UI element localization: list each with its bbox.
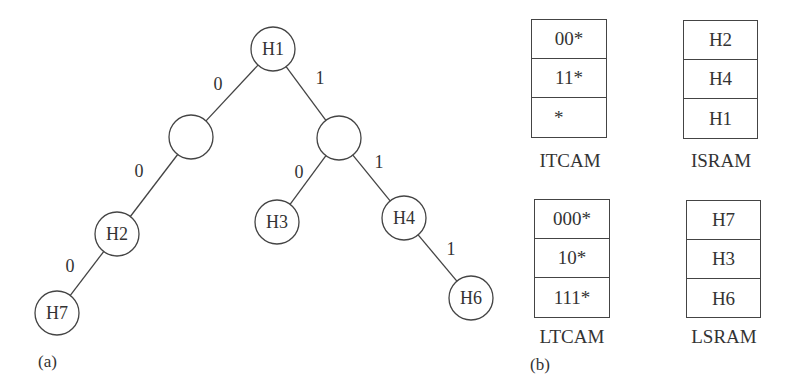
tree-node-h7: H7 [35,291,79,335]
edge-label: 0 [66,256,75,276]
isram-table: H2 H4 H1 [683,20,758,139]
edge-label: 0 [214,74,223,94]
lsram-entry: H6 [687,279,760,318]
edge-label: 0 [295,162,304,182]
isram-entry: H1 [684,99,757,138]
edge-label: 0 [135,161,144,181]
tree-node-h6: H6 [449,276,493,320]
tree-node-h1: H1 [251,27,295,71]
itcam-table: 00* 11* * [531,19,607,138]
edge-label: 1 [375,152,384,172]
lsram-table: H7 H3 H6 [686,200,761,318]
ltcam-entry: 111* [535,278,609,317]
lsram-entry: H3 [687,240,760,279]
isram-entry: H2 [684,21,757,60]
svg-text:H7: H7 [46,303,68,323]
svg-text:H1: H1 [262,39,284,59]
tree-node-internal [317,116,361,160]
ltcam-caption: LTCAM [527,326,617,348]
lsram-entry: H7 [687,201,760,240]
itcam-entry: 11* [532,59,606,98]
svg-text:H4: H4 [393,208,415,228]
tree-edge [70,252,103,296]
lsram-caption: LSRAM [679,326,769,348]
isram-caption: ISRAM [676,150,766,172]
panel-a-label: (a) [38,352,57,372]
svg-text:H3: H3 [266,212,288,232]
itcam-caption: ITCAM [525,150,615,172]
tree-edge [353,155,390,201]
panel-b-label: (b) [530,355,550,375]
svg-text:H6: H6 [460,288,482,308]
isram-entry: H4 [684,60,757,99]
tree-node-h2: H2 [95,212,139,256]
trie-diagram: 0100101 H1H2H3H4H7H6 [0,0,500,392]
ltcam-entry: 10* [535,239,609,278]
tree-node-internal [169,115,213,159]
edge-label: 1 [447,239,456,259]
ltcam-entry: 000* [535,200,609,239]
itcam-entry: 00* [532,20,606,59]
tree-node-h4: H4 [382,196,426,240]
itcam-entry: * [532,98,606,137]
tree-node-h3: H3 [255,200,299,244]
ltcam-table: 000* 10* 111* [534,199,610,318]
edge-label: 1 [316,68,325,88]
svg-text:H2: H2 [106,224,128,244]
